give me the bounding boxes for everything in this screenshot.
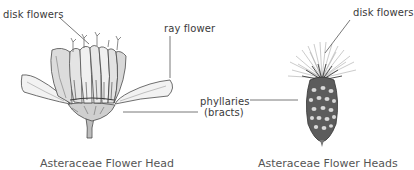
- label-disk-flowers-right: disk flowers: [353, 7, 414, 18]
- label-bracts: (bracts): [204, 107, 244, 118]
- caption-left: Asteraceae Flower Head: [40, 158, 174, 170]
- right-flower-illustration: [288, 42, 356, 147]
- label-disk-flowers-left: disk flowers: [3, 9, 64, 20]
- left-flower-illustration: [21, 32, 172, 138]
- caption-right: Asteraceae Flower Heads: [258, 158, 398, 170]
- label-phyllaries: phyllaries: [200, 96, 250, 107]
- leader-disk-flowers-right: [325, 20, 350, 53]
- label-ray-flower: ray flower: [164, 23, 215, 34]
